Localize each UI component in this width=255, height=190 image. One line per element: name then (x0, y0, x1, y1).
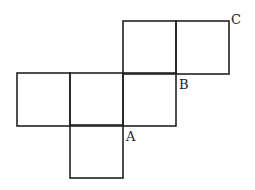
net-square-top-left (123, 21, 176, 74)
net-square-mid-3 (123, 73, 176, 126)
net-square-mid-2 (70, 73, 123, 126)
net-square-top-right (176, 21, 229, 74)
cube-net-diagram: A B C (0, 0, 255, 190)
net-square-bottom (70, 125, 123, 178)
cube-net-squares (17, 21, 229, 178)
label-c: C (231, 12, 241, 27)
label-a: A (125, 129, 136, 144)
net-square-mid-1 (17, 73, 70, 126)
label-b: B (179, 77, 189, 92)
